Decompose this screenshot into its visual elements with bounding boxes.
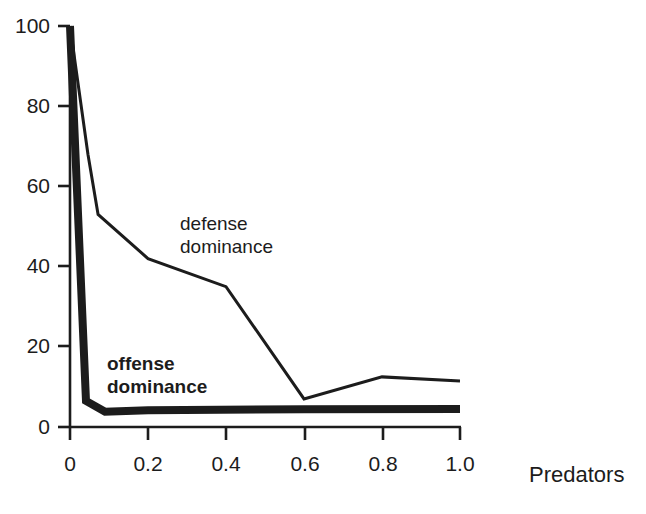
x-tick-label-1-0: 1.0 xyxy=(430,452,490,476)
annotation-offense-dominance: offense dominance xyxy=(107,352,207,398)
chart-plot-area xyxy=(0,0,646,514)
x-tick-label-0-4: 0.4 xyxy=(196,452,256,476)
annotation-offense-line-2: dominance xyxy=(107,375,207,398)
annotation-defense-dominance: defense dominance xyxy=(180,212,273,258)
x-tick-label-0-6: 0.6 xyxy=(275,452,335,476)
x-axis-ticks xyxy=(70,427,460,440)
x-axis-title: Predators xyxy=(529,462,624,488)
y-tick-label-40: 40 xyxy=(2,254,50,278)
y-tick-label-100: 100 xyxy=(2,14,50,38)
x-tick-label-0-2: 0.2 xyxy=(118,452,178,476)
y-tick-label-20: 20 xyxy=(2,334,50,358)
y-tick-label-0: 0 xyxy=(2,415,50,439)
annotation-defense-line-1: defense xyxy=(180,212,273,235)
annotation-offense-line-1: offense xyxy=(107,352,207,375)
annotation-defense-line-2: dominance xyxy=(180,235,273,258)
y-axis-ticks xyxy=(58,26,70,427)
y-tick-label-80: 80 xyxy=(2,94,50,118)
x-tick-label-0: 0 xyxy=(40,452,100,476)
x-tick-label-0-8: 0.8 xyxy=(353,452,413,476)
y-tick-label-60: 60 xyxy=(2,174,50,198)
chart-figure: 100 80 60 40 20 0 0 0.2 0.4 0.6 0.8 1.0 … xyxy=(0,0,646,514)
